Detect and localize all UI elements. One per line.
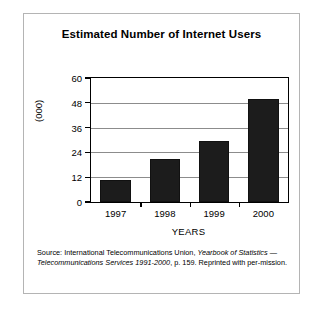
x-tick-mark xyxy=(140,202,141,207)
y-tick-mark xyxy=(85,177,91,178)
y-tick-label: 24 xyxy=(71,147,82,158)
y-tick-label: 60 xyxy=(71,73,82,84)
x-tick-label: 1998 xyxy=(154,208,175,219)
x-axis-title: YEARS xyxy=(90,226,287,237)
x-tick-label: 2000 xyxy=(253,208,274,219)
y-tick-label: 12 xyxy=(71,172,82,183)
bar xyxy=(248,99,279,202)
x-tick-mark xyxy=(190,202,191,207)
source-text-italic-1: Yearbook of Statistics xyxy=(198,248,268,257)
y-tick-mark xyxy=(85,77,91,78)
x-tick-label: 1999 xyxy=(204,208,225,219)
x-tick-mark xyxy=(239,202,240,207)
y-tick-mark xyxy=(85,152,91,153)
y-tick-mark xyxy=(85,201,91,202)
plot-area: 012243648601997199819992000 xyxy=(90,77,289,203)
y-tick-mark xyxy=(85,102,91,103)
y-tick-mark xyxy=(85,127,91,128)
figure-panel: Estimated Number of Internet Users 01224… xyxy=(23,13,300,294)
y-axis-title: (000) xyxy=(33,100,44,122)
x-tick-label: 1997 xyxy=(105,208,126,219)
source-text-part-1: Source: International Telecommunications… xyxy=(37,248,198,257)
y-tick-label: 0 xyxy=(77,197,82,208)
source-text-part-3: mission. xyxy=(260,258,287,267)
bar xyxy=(199,141,230,202)
source-note: Source: International Telecommunications… xyxy=(37,248,289,269)
y-tick-label: 36 xyxy=(71,122,82,133)
bar xyxy=(150,159,181,202)
source-text-part-2: , p. 159. Reprinted with per- xyxy=(170,258,260,267)
y-tick-label: 48 xyxy=(71,97,82,108)
bar xyxy=(100,180,131,202)
